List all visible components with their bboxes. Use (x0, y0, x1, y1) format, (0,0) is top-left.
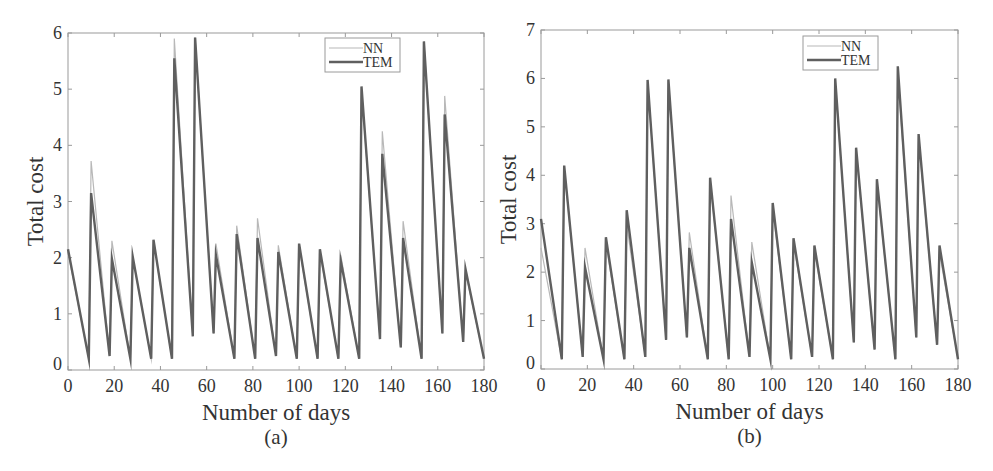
legend-label-nn: NN (363, 41, 383, 56)
line-chart-a: 0204060801001201401601800123456Number of… (0, 0, 496, 471)
x-tick-label: 20 (105, 376, 123, 396)
x-tick-label: 40 (625, 375, 643, 395)
y-tick-label: 0 (53, 354, 62, 374)
x-tick-label: 160 (424, 376, 451, 396)
y-axis-title: Total cost (23, 156, 48, 246)
figure-caption: (b) (737, 424, 762, 448)
y-tick-label: 0 (526, 353, 535, 373)
y-tick-label: 5 (53, 79, 62, 99)
x-tick-label: 180 (945, 375, 972, 395)
x-tick-label: 0 (537, 375, 546, 395)
x-tick-label: 140 (378, 376, 405, 396)
x-tick-label: 60 (198, 376, 216, 396)
legend-label-nn: NN (841, 39, 861, 54)
y-tick-label: 6 (526, 68, 535, 88)
y-tick-label: 3 (53, 192, 62, 212)
x-tick-label: 60 (671, 375, 689, 395)
y-axis-title: Total cost (496, 154, 521, 244)
chart-panel-b: 02040608010012014016018001234567Number o… (496, 0, 993, 471)
x-tick-label: 0 (64, 376, 73, 396)
legend: NNTEM (803, 36, 878, 70)
y-tick-label: 2 (53, 248, 62, 268)
x-tick-label: 80 (244, 376, 262, 396)
x-tick-label: 140 (852, 375, 879, 395)
x-tick-label: 120 (806, 375, 833, 395)
x-tick-label: 160 (898, 375, 925, 395)
legend-label-tem: TEM (841, 53, 871, 68)
x-tick-label: 100 (286, 376, 313, 396)
x-tick-label: 20 (578, 375, 596, 395)
y-tick-label: 1 (53, 304, 62, 324)
y-tick-label: 4 (53, 135, 62, 155)
series-line-tem (541, 66, 958, 359)
x-tick-label: 40 (151, 376, 169, 396)
y-tick-label: 5 (526, 117, 535, 137)
chart-panel-a: 0204060801001201401601800123456Number of… (0, 0, 496, 471)
figure-caption: (a) (264, 425, 287, 449)
y-tick-label: 1 (526, 311, 535, 331)
x-tick-label: 180 (471, 376, 498, 396)
y-tick-label: 2 (526, 262, 535, 282)
x-tick-label: 100 (759, 375, 786, 395)
line-chart-b: 02040608010012014016018001234567Number o… (496, 0, 993, 471)
x-axis-title: Number of days (675, 399, 823, 424)
series-line-tem (68, 38, 484, 359)
y-tick-label: 7 (526, 20, 535, 40)
y-tick-label: 3 (526, 214, 535, 234)
legend-label-tem: TEM (363, 55, 393, 70)
x-tick-label: 120 (332, 376, 359, 396)
x-tick-label: 80 (717, 375, 735, 395)
legend: NNTEM (325, 38, 400, 72)
y-tick-label: 4 (526, 165, 535, 185)
x-axis-title: Number of days (202, 400, 350, 425)
y-tick-label: 6 (53, 23, 62, 43)
